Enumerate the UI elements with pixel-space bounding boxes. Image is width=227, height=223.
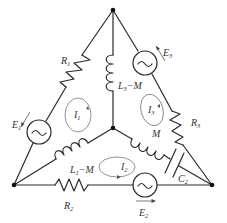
branch-center-left xyxy=(14,128,113,185)
inductor-l1m xyxy=(55,139,88,159)
branch-top-left xyxy=(14,10,113,185)
label-r2: R2 xyxy=(63,200,74,212)
label-r3: R3 xyxy=(190,117,201,129)
arrow-e3-icon xyxy=(156,46,160,51)
arrow-e2-icon xyxy=(152,199,157,203)
ac-source-e3 xyxy=(133,51,157,75)
label-i1: I1 xyxy=(73,109,81,121)
label-e2: E2 xyxy=(138,207,149,219)
inductor-m xyxy=(131,139,164,159)
loop-i2 xyxy=(99,157,135,179)
label-c2: C2 xyxy=(178,173,189,185)
ac-source-e1 xyxy=(27,120,51,144)
label-m: M xyxy=(151,128,161,139)
ac-source-e2 xyxy=(133,173,157,197)
label-r1: R1 xyxy=(60,55,70,67)
branch-center-right xyxy=(113,128,212,185)
inductor-l3m xyxy=(106,55,113,91)
circuit-diagram: R1 E1 E3 R3 L3−M L1−M M C2 R2 E2 I1 I3 I… xyxy=(0,0,227,223)
label-i3: I3 xyxy=(147,104,155,116)
resistor-r2 xyxy=(55,179,88,191)
label-e1: E1 xyxy=(11,119,21,131)
loop-arrow-i2-icon xyxy=(117,175,121,179)
node-top xyxy=(111,8,116,13)
branch-top-center xyxy=(106,10,113,128)
loop-arrow-i3-icon xyxy=(157,104,160,108)
node-bottom-left xyxy=(12,183,17,188)
label-l3-minus-m: L3−M xyxy=(117,80,143,92)
label-l1-minus-m: L1−M xyxy=(69,164,95,176)
node-center xyxy=(111,126,116,131)
label-i2: I2 xyxy=(120,161,128,173)
capacitor-c2-plate1 xyxy=(165,149,176,173)
resistor-r3 xyxy=(170,111,183,145)
node-bottom-right xyxy=(210,183,215,188)
loop-arrow-i1-icon xyxy=(86,106,89,110)
label-e3: E3 xyxy=(162,47,173,59)
